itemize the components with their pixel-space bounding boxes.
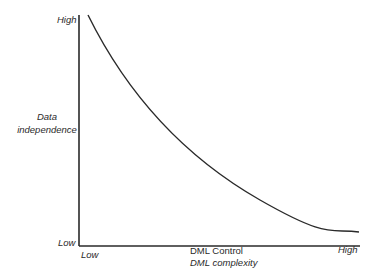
y-axis-title: Data independence [14,110,80,136]
x-tick-low: Low [81,249,98,260]
data-curve [88,15,359,232]
y-axis-title-line2: independence [14,123,80,136]
y-tick-low: Low [58,237,75,248]
chart-canvas [0,0,378,280]
x-tick-high: High [338,244,358,255]
x-axis-title: DML Control [190,245,243,256]
x-axis-subtitle: DML complexity [190,257,257,268]
y-tick-high: High [57,14,77,25]
y-axis-title-line1: Data [14,110,80,123]
